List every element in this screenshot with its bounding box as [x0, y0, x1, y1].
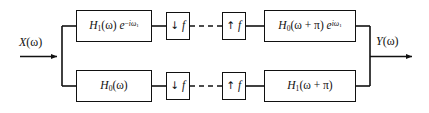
filter-bank-diagram: X(ω) Y(ω) H1(ω) e−iω1 ↓f ↑f H0(ω + π) ei…: [0, 0, 429, 113]
block-upsampler-top: ↑f: [222, 12, 246, 40]
block-upsampler-bottom: ↑f: [222, 72, 246, 100]
block-downsampler-top: ↓f: [166, 12, 190, 40]
block-synthesis-filter-bottom: H1(ω + π): [264, 70, 356, 102]
block-synthesis-filter-top: H0(ω + π) eiω1: [264, 10, 356, 42]
block-analysis-filter-bottom: H0(ω): [76, 70, 152, 102]
output-signal-label: Y(ω): [376, 35, 399, 47]
block-analysis-filter-top: H1(ω) e−iω1: [76, 10, 152, 42]
diagram-wiring: [0, 0, 429, 113]
block-downsampler-bottom: ↓f: [166, 72, 190, 100]
input-signal-label: X(ω): [19, 36, 42, 48]
